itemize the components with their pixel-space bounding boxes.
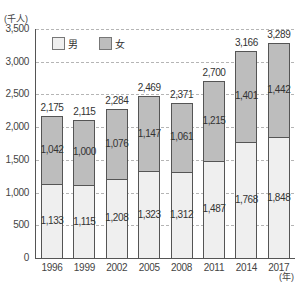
value-label-female: 1,061 <box>165 131 199 142</box>
value-label-male: 1,768 <box>229 194 263 205</box>
legend-item-female: 女 <box>99 36 125 51</box>
value-label-total: 2,115 <box>67 106 101 117</box>
y-tick-label: 1,500 <box>0 154 29 165</box>
value-label-total: 2,175 <box>35 102 69 113</box>
value-label-male: 1,115 <box>67 216 101 227</box>
value-label-male: 1,133 <box>35 215 69 226</box>
value-label-total: 2,469 <box>132 82 166 93</box>
legend-item-male: 男 <box>52 36 78 51</box>
value-label-female: 1,042 <box>35 144 69 155</box>
x-tick-label: 1996 <box>35 262 69 273</box>
value-label-total: 3,289 <box>262 29 296 40</box>
value-label-female: 1,401 <box>229 90 263 101</box>
x-tick-label: 2017 <box>262 262 296 273</box>
value-label-male: 1,487 <box>197 203 231 214</box>
value-label-male: 1,208 <box>100 212 134 223</box>
y-tick-label: 2,500 <box>0 88 29 99</box>
x-tick-label: 2002 <box>100 262 134 273</box>
x-tick-label: 1999 <box>67 262 101 273</box>
legend-label-male: 男 <box>68 36 78 51</box>
value-label-female: 1,442 <box>262 84 296 95</box>
y-tick-label: 1,000 <box>0 187 29 198</box>
x-axis-line <box>35 258 295 259</box>
value-label-total: 2,284 <box>100 95 134 106</box>
y-tick-label: 500 <box>0 219 29 230</box>
value-label-total: 2,371 <box>165 89 199 100</box>
value-label-total: 2,700 <box>197 67 231 78</box>
value-label-male: 1,312 <box>165 209 199 220</box>
value-label-male: 1,848 <box>262 192 296 203</box>
legend-label-female: 女 <box>115 36 125 51</box>
value-label-female: 1,076 <box>100 138 134 149</box>
x-tick-label: 2014 <box>229 262 263 273</box>
y-tick-label: 3,500 <box>0 23 29 34</box>
value-label-female: 1,147 <box>132 128 166 139</box>
gridline <box>36 29 294 30</box>
value-label-male: 1,323 <box>132 209 166 220</box>
value-label-female: 1,000 <box>67 146 101 157</box>
x-tick-label: 2008 <box>165 262 199 273</box>
value-label-total: 3,166 <box>229 37 263 48</box>
value-label-female: 1,215 <box>197 115 231 126</box>
stacked-bar-chart: (千人) (年) 05001,0001,5002,0002,5003,0003,… <box>0 0 302 286</box>
y-tick-label: 2,000 <box>0 121 29 132</box>
x-tick-label: 2005 <box>132 262 166 273</box>
legend-swatch-male <box>52 37 65 50</box>
y-tick-label: 3,000 <box>0 56 29 67</box>
y-tick-label: 0 <box>0 252 29 263</box>
legend-swatch-female <box>99 37 112 50</box>
x-tick-label: 2011 <box>197 262 231 273</box>
